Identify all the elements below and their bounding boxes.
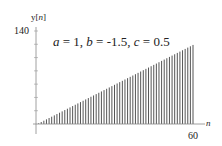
x-axis-label: n bbox=[206, 118, 211, 128]
stem-series bbox=[39, 45, 193, 124]
y-label-text: y[n] bbox=[31, 12, 46, 22]
x-tick-label-60: 60 bbox=[188, 130, 198, 141]
chart-title: a = 1, b = -1.5, c = 0.5 bbox=[53, 34, 170, 49]
y-axis-label: y[n] bbox=[31, 12, 46, 22]
y-tick-label-140: 140 bbox=[14, 25, 29, 36]
stem-plot: y[n] 140 60 n a = 1, b = -1.5, c = 0.5 bbox=[0, 0, 222, 146]
